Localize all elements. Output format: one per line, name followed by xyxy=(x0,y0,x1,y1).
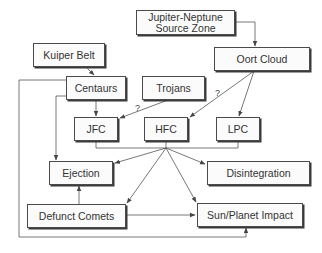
node-trojans: Trojans xyxy=(142,76,205,100)
arrow-hub-to-impact xyxy=(166,148,196,202)
uncertain-mark-oort-hfc: ? xyxy=(215,88,220,98)
node-defunct-comets: Defunct Comets xyxy=(27,204,126,228)
node-kuiper-belt: Kuiper Belt xyxy=(33,43,105,67)
node-label: Disintegration xyxy=(226,168,290,179)
collector-line xyxy=(96,141,238,148)
node-label: Defunct Comets xyxy=(39,211,114,222)
arrow-source-to-oort xyxy=(235,22,255,46)
node-disintegration: Disintegration xyxy=(207,161,310,185)
arrow-centaurs-to-ejection xyxy=(56,96,66,160)
arrow-hub-to-defunct xyxy=(127,148,166,203)
node-oort-cloud: Oort Cloud xyxy=(214,47,310,71)
node-label: LPC xyxy=(228,124,248,135)
arrow-oort-to-lpc xyxy=(239,71,254,116)
uncertain-mark-trojans-jfc: ? xyxy=(135,103,140,113)
arrow-kuiper-to-centaurs xyxy=(86,67,94,75)
node-hfc: HFC xyxy=(144,117,188,141)
node-label: Oort Cloud xyxy=(237,54,288,65)
node-label: JFC xyxy=(86,124,105,135)
node-sun-planet-impact: Sun/Planet Impact xyxy=(197,203,303,227)
node-jupiter-neptune-source-zone: Jupiter-Neptune Source Zone xyxy=(136,10,235,35)
node-label: Ejection xyxy=(62,168,99,179)
node-label: Jupiter-Neptune Source Zone xyxy=(148,12,223,34)
node-lpc: LPC xyxy=(216,117,260,141)
node-jfc: JFC xyxy=(74,117,118,141)
node-label: Centaurs xyxy=(75,83,118,94)
arrow-trojans-to-jfc xyxy=(120,100,168,118)
node-centaurs: Centaurs xyxy=(66,76,126,100)
node-ejection: Ejection xyxy=(49,161,113,185)
node-label: Trojans xyxy=(156,83,191,94)
arrow-hub-to-disintegration xyxy=(166,148,205,164)
node-label: HFC xyxy=(155,124,177,135)
arrow-hub-to-ejection xyxy=(115,148,166,163)
node-label: Sun/Planet Impact xyxy=(207,210,293,221)
node-label: Kuiper Belt xyxy=(43,50,94,61)
